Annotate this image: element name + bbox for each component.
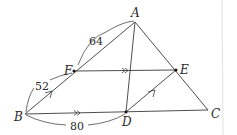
parallel-arrow-DE-icon (148, 90, 155, 97)
label-B: B (13, 110, 23, 124)
length-FB: 52 (35, 80, 49, 93)
segment-AC (135, 22, 208, 110)
segment-AD (126, 22, 135, 112)
label-A: A (130, 6, 140, 20)
label-D: D (121, 115, 132, 129)
arc-BD-left (26, 115, 66, 125)
arc-FB-lower (26, 88, 34, 112)
label-C: C (211, 107, 220, 121)
segment-BC (25, 110, 208, 114)
point-F (73, 70, 76, 73)
arc-BD-right (88, 114, 125, 125)
page-edge-line (222, 0, 223, 135)
segment-AB (25, 22, 135, 114)
length-BD: 80 (70, 120, 84, 133)
geometry-diagram: A F E B D C 64 52 80 (0, 0, 237, 135)
point-D (125, 111, 128, 114)
point-E (175, 69, 178, 72)
label-F: F (63, 64, 73, 78)
label-E: E (179, 63, 189, 77)
length-AF: 64 (89, 35, 103, 48)
